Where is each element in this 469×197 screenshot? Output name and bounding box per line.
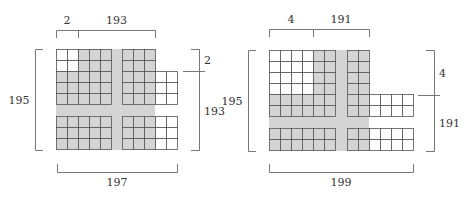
grid-cell	[392, 95, 403, 106]
grid-cell	[57, 139, 68, 150]
grid-cell	[348, 51, 359, 62]
grid-cell	[359, 51, 370, 62]
grid-cell	[359, 140, 370, 151]
grid-cell	[167, 94, 178, 105]
grid-cell	[123, 72, 134, 83]
grid-cell	[381, 106, 392, 117]
grid-cell	[303, 51, 314, 62]
grid-cell	[292, 84, 303, 95]
grid-cell	[167, 117, 178, 128]
grid-cell	[270, 106, 281, 117]
grid-cell	[134, 117, 145, 128]
grid-cell	[325, 95, 336, 106]
grid-cell	[359, 106, 370, 117]
label-top-right: 193	[106, 14, 127, 27]
bracket-left	[36, 50, 44, 151]
grid-cell	[101, 117, 112, 128]
grid-cell	[90, 117, 101, 128]
grid-cell	[303, 84, 314, 95]
grid-cell	[79, 61, 90, 72]
label-bottom: 199	[331, 176, 352, 189]
grid-cell	[101, 128, 112, 139]
grid-cell	[314, 62, 325, 73]
grid-cell	[270, 73, 281, 84]
grid-cell	[392, 140, 403, 151]
grid-cell	[348, 106, 359, 117]
grid-cell	[270, 140, 281, 151]
grid-cell	[79, 72, 90, 83]
grid-cell	[90, 61, 101, 72]
grid-cell	[145, 94, 156, 105]
grid-cell	[123, 117, 134, 128]
grid-cell	[167, 72, 178, 83]
grid-cell	[134, 72, 145, 83]
grid-cell	[403, 140, 414, 151]
grid-cell	[90, 72, 101, 83]
grid-cell	[145, 72, 156, 83]
grid-cell	[123, 94, 134, 105]
grid-cell	[270, 95, 281, 106]
grid-cell	[348, 62, 359, 73]
grid-cell	[145, 83, 156, 94]
grid-cell	[57, 117, 68, 128]
grid-cell	[392, 106, 403, 117]
grid-cell	[134, 139, 145, 150]
grid-cell	[292, 73, 303, 84]
grid-cell	[303, 129, 314, 140]
label-right-top: 4	[439, 67, 446, 80]
grid-cell	[292, 62, 303, 73]
label-top-left: 2	[64, 14, 71, 27]
grid-cell	[281, 140, 292, 151]
grid-cell	[281, 95, 292, 106]
grid-cell	[314, 106, 325, 117]
grid-cell	[101, 72, 112, 83]
grid-cell	[281, 73, 292, 84]
bracket-top	[270, 30, 370, 38]
label-top-right: 191	[331, 13, 352, 26]
grid-cell	[314, 140, 325, 151]
right-figure: 4 191 195 4 191 199	[222, 13, 461, 189]
bracket-right	[183, 50, 205, 151]
grid-cell	[303, 106, 314, 117]
grid-cell	[134, 94, 145, 105]
grid-cell	[101, 94, 112, 105]
grid-cell	[325, 140, 336, 151]
grid-cell	[348, 73, 359, 84]
grid-cell	[403, 106, 414, 117]
grid-cell	[292, 140, 303, 151]
grid-cell	[79, 117, 90, 128]
grid-cell	[359, 95, 370, 106]
grid-cell	[325, 84, 336, 95]
grid-cell	[303, 95, 314, 106]
grid-cell	[370, 140, 381, 151]
grid-cell	[101, 61, 112, 72]
grid-cell	[57, 128, 68, 139]
grid-cell	[79, 128, 90, 139]
grid-cell	[292, 129, 303, 140]
grid-cell	[145, 117, 156, 128]
grid-cell	[403, 129, 414, 140]
grid-cell	[314, 84, 325, 95]
grid-cell	[381, 140, 392, 151]
grid-cell	[79, 139, 90, 150]
grid-cell	[156, 83, 167, 94]
grid-cell	[359, 84, 370, 95]
grid-cell	[101, 139, 112, 150]
grid-cell	[68, 61, 79, 72]
grid-cell	[101, 50, 112, 61]
grid-cell	[292, 106, 303, 117]
grid-cell	[68, 50, 79, 61]
grid-cell	[167, 128, 178, 139]
grid-cell	[134, 50, 145, 61]
grid-cell	[79, 94, 90, 105]
grid-cell	[68, 94, 79, 105]
grid-cell	[90, 94, 101, 105]
bracket-right	[418, 51, 440, 152]
grid-cell	[68, 139, 79, 150]
grid-cell	[68, 72, 79, 83]
grid-cell	[325, 62, 336, 73]
grid-cell	[123, 139, 134, 150]
grid-cell	[270, 84, 281, 95]
grid-cell	[90, 50, 101, 61]
grid-cell	[68, 83, 79, 94]
